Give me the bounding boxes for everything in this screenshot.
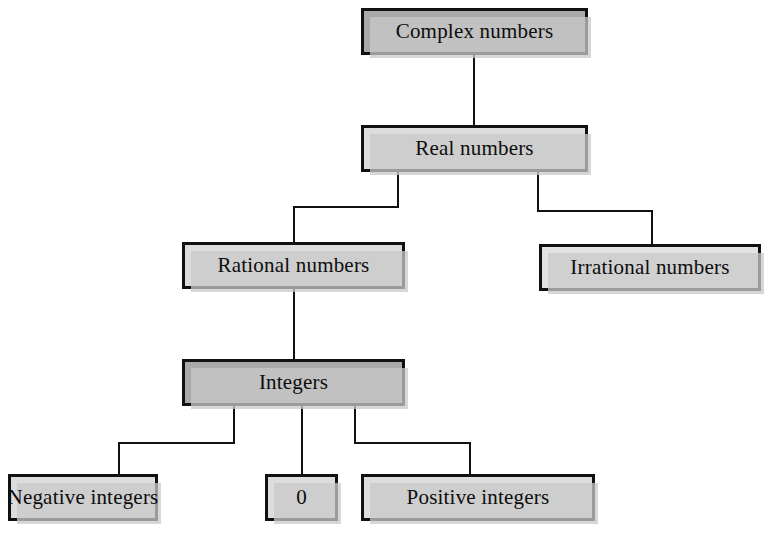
node-negative-integers[interactable]: Negative integers	[8, 474, 158, 521]
node-label-zero: 0	[296, 485, 307, 510]
node-positive-integers[interactable]: Positive integers	[361, 474, 595, 521]
node-label-real-numbers: Real numbers	[415, 136, 533, 161]
node-real-numbers[interactable]: Real numbers	[361, 125, 588, 172]
number-classification-diagram: Complex numbersReal numbersRational numb…	[0, 0, 770, 541]
node-label-irrational-numbers: Irrational numbers	[570, 255, 729, 280]
node-label-integers: Integers	[259, 370, 328, 395]
node-rational-numbers[interactable]: Rational numbers	[182, 242, 405, 289]
node-zero[interactable]: 0	[265, 474, 338, 521]
node-label-negative-integers: Negative integers	[8, 485, 159, 510]
edge-real-to-rational	[294, 172, 398, 242]
node-label-complex-numbers: Complex numbers	[396, 19, 554, 44]
node-integers[interactable]: Integers	[182, 359, 405, 406]
edge-integers-to-negative	[119, 406, 234, 474]
node-label-positive-integers: Positive integers	[407, 485, 550, 510]
node-complex-numbers[interactable]: Complex numbers	[361, 8, 588, 55]
edge-real-to-irrational	[538, 172, 652, 244]
edge-integers-to-positive	[355, 406, 470, 474]
node-label-rational-numbers: Rational numbers	[218, 253, 370, 278]
node-irrational-numbers[interactable]: Irrational numbers	[539, 244, 761, 291]
